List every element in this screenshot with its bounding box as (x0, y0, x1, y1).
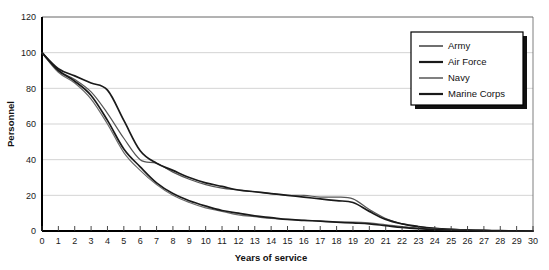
x-tick-label: 6 (138, 236, 143, 246)
x-tick-label: 9 (187, 236, 192, 246)
personnel-vs-years-line-chart: 020406080100120 012345678910111213141516… (0, 0, 549, 270)
x-tick-label: 28 (495, 236, 505, 246)
x-tick-label: 7 (154, 236, 159, 246)
x-tick-label: 18 (332, 236, 342, 246)
x-tick-label: 29 (512, 236, 522, 246)
x-tick-label: 17 (315, 236, 325, 246)
x-tick-label: 26 (463, 236, 473, 246)
x-tick-label: 10 (201, 236, 211, 246)
y-tick-label: 80 (26, 84, 36, 94)
x-tick-label: 5 (121, 236, 126, 246)
x-tick-label: 1 (56, 236, 61, 246)
x-tick-label: 25 (446, 236, 456, 246)
x-tick-label: 13 (250, 236, 260, 246)
x-tick-label: 12 (233, 236, 243, 246)
y-axis-title: Personnel (5, 101, 16, 147)
x-tick-label: 23 (413, 236, 423, 246)
legend-item-label: Marine Corps (448, 88, 505, 99)
x-tick-label: 8 (170, 236, 175, 246)
x-tick-label: 15 (282, 236, 292, 246)
x-tick-label: 14 (266, 236, 276, 246)
x-tick-label: 3 (89, 236, 94, 246)
y-tick-label: 0 (31, 226, 36, 236)
x-tick-label: 16 (299, 236, 309, 246)
x-tick-label: 2 (72, 236, 77, 246)
x-tick-label: 4 (105, 236, 110, 246)
x-tick-label: 20 (364, 236, 374, 246)
x-tick-label: 0 (39, 236, 44, 246)
legend-item-label: Navy (448, 72, 470, 83)
chart-container: 020406080100120 012345678910111213141516… (0, 0, 549, 270)
x-tick-label: 21 (381, 236, 391, 246)
legend[interactable]: ArmyAir ForceNavyMarine Corps (411, 32, 527, 109)
legend-item-label: Army (448, 40, 470, 51)
x-tick-label: 11 (217, 236, 226, 246)
x-tick-label: 24 (430, 236, 440, 246)
legend-item-label: Air Force (448, 56, 487, 67)
x-tick-label: 30 (528, 236, 538, 246)
x-tick-label: 19 (348, 236, 358, 246)
x-axis-title: Years of service (235, 252, 307, 263)
x-tick-label: 22 (397, 236, 407, 246)
y-tick-label: 60 (26, 119, 36, 129)
y-tick-label: 120 (21, 12, 36, 22)
x-tick-label: 27 (479, 236, 489, 246)
y-tick-label: 100 (21, 48, 36, 58)
y-tick-label: 20 (26, 191, 36, 201)
y-tick-label: 40 (26, 155, 36, 165)
